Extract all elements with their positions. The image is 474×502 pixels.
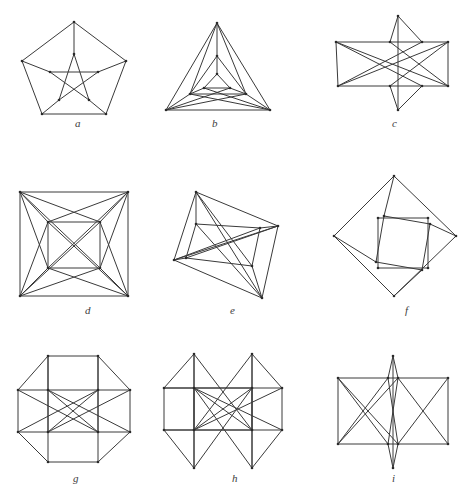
graph-vertex [216, 22, 219, 25]
graph-vertex [49, 71, 52, 74]
graph-vertex [125, 60, 128, 63]
figure-label-g: g [73, 473, 79, 484]
graph-vertex [127, 295, 130, 298]
graph-drawing-e [160, 186, 288, 306]
graph-vertex [73, 53, 76, 56]
graph-vertex [277, 225, 280, 228]
figure-label-f: f [405, 305, 408, 316]
graph-vertex [251, 467, 254, 470]
graph-vertex [375, 261, 378, 264]
graph-edge [106, 61, 126, 114]
graph-vertex [189, 93, 192, 96]
graph-edge [196, 192, 262, 298]
graph-vertex [447, 85, 450, 88]
graph-vertex [447, 377, 450, 380]
graph-edge [393, 356, 398, 378]
graph-vertex [421, 85, 424, 88]
graph-edge [252, 430, 282, 468]
figure-h [160, 350, 288, 474]
plate-caption [0, 491, 474, 502]
figure-label-b: b [212, 118, 218, 129]
graph-vertex [19, 295, 22, 298]
graph-vertex [261, 297, 264, 300]
graph-edge [74, 54, 89, 100]
graph-vertex [99, 267, 102, 270]
graph-vertex [127, 191, 130, 194]
graph-edge [204, 74, 217, 88]
figure-plate: abcdefghi [0, 0, 474, 502]
graph-edge [22, 61, 50, 72]
graph-vertex [392, 467, 395, 470]
graph-vertex [377, 217, 380, 220]
graph-edge [390, 16, 398, 42]
graph-vertex [216, 73, 219, 76]
figure-e [160, 186, 288, 306]
figure-label-a: a [75, 118, 81, 129]
figure-g [14, 352, 136, 470]
graph-edge [98, 432, 130, 462]
graph-vertex [97, 71, 100, 74]
graph-edge [190, 23, 217, 94]
graph-vertices-b [165, 22, 272, 112]
graph-vertex [47, 355, 50, 358]
figure-label-c: c [392, 118, 397, 129]
graph-drawing-a [14, 18, 134, 118]
graph-edge [59, 54, 74, 100]
graph-vertex [427, 267, 430, 270]
graph-vertex [97, 431, 100, 434]
graph-edges-h [164, 354, 282, 468]
graph-edge [164, 430, 194, 468]
figure-label-d: d [85, 305, 91, 316]
graph-vertex [387, 443, 390, 446]
graph-vertex [427, 217, 430, 220]
figure-label-h: h [232, 473, 238, 484]
graph-vertex [337, 377, 340, 380]
graph-vertex [377, 267, 380, 270]
graph-vertex [97, 389, 100, 392]
graph-vertex [281, 429, 284, 432]
graph-vertex [387, 377, 390, 380]
graph-vertex [17, 389, 20, 392]
graph-vertex [251, 265, 254, 268]
graph-vertex [229, 87, 232, 90]
graph-edge [398, 86, 422, 110]
graph-vertex [216, 55, 219, 58]
figure-f [330, 172, 462, 304]
figure-a [14, 18, 134, 118]
graph-vertex [129, 389, 132, 392]
graph-vertex [335, 41, 338, 44]
graph-vertex [455, 235, 458, 238]
graph-edge [334, 236, 376, 262]
graph-vertex [397, 15, 400, 18]
graph-edge [50, 72, 89, 100]
graph-vertex [447, 443, 450, 446]
graph-edge [100, 192, 128, 268]
graph-vertex [393, 175, 396, 178]
graph-vertex [203, 87, 206, 90]
graph-vertex [337, 443, 340, 446]
graph-edge [100, 222, 128, 296]
graph-edge [42, 100, 59, 114]
graph-vertex [193, 467, 196, 470]
graph-vertex [383, 215, 386, 218]
graph-edges-c [336, 16, 448, 110]
graph-vertex [251, 429, 254, 432]
graph-edges-i [338, 356, 448, 468]
graph-vertex [333, 235, 336, 238]
graph-edge [398, 16, 422, 42]
graph-vertex [281, 387, 284, 390]
graph-edge [376, 262, 422, 270]
graph-vertex [193, 429, 196, 432]
graph-vertex [97, 461, 100, 464]
graph-vertex [251, 387, 254, 390]
graph-edge [20, 192, 48, 268]
graph-edge [388, 444, 393, 468]
graph-drawing-i [330, 352, 456, 472]
graph-drawing-f [330, 172, 462, 304]
graph-edge [22, 61, 42, 114]
graph-vertex [173, 259, 176, 262]
graph-edge [217, 23, 246, 94]
graph-edge [164, 354, 194, 388]
graph-edges-e [174, 192, 278, 298]
graph-vertex [337, 85, 340, 88]
